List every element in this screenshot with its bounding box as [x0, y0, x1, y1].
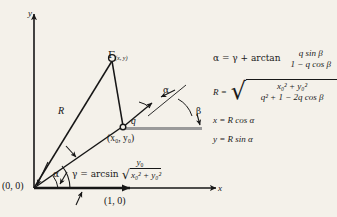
gamma-radicand: x₀² + y₀² [130, 168, 161, 182]
equation-R-radical: √ x₀² + y₀² q² + 1 − 2q cos β [231, 79, 337, 104]
angle-arc-alpha-origin [62, 166, 70, 188]
equation-R-denominator: q² + 1 − 2q cos β [257, 91, 328, 102]
apex-subscript: (x, y) [115, 54, 128, 61]
equation-R-numerator: x₀² + y₀² [273, 81, 311, 92]
equation-R: R = √ x₀² + y₀² q² + 1 − 2q cos β [213, 79, 337, 104]
x-axis-label: x [218, 184, 222, 193]
radical-sign: √ [122, 168, 130, 182]
angle-arc-beta [178, 99, 192, 116]
y-axis-label: y [28, 9, 32, 18]
equation-R-radicand: x₀² + y₀² q² + 1 − 2q cos β [246, 79, 337, 104]
gamma-numerator: y0 [131, 157, 150, 167]
inner-point-marker [120, 124, 126, 130]
equation-y: y = R sin α [213, 134, 337, 144]
apex-symbol: Γ [108, 49, 115, 60]
angle-beta-label: β [196, 107, 201, 116]
equation-R-fraction: x₀² + y₀² q² + 1 − 2q cos β [247, 81, 337, 101]
figure-canvas: y x (0, 0) (1, 0) Γ(x, y) (x₀, y₀) R q α… [0, 0, 337, 217]
radical-sign: √ [231, 79, 246, 104]
segment-apex-to-point [112, 61, 123, 126]
inner-point-label: (x₀, y₀) [107, 134, 134, 144]
unit-point-label: (1, 0) [104, 196, 126, 206]
equation-alpha-lhs: α = γ + arctan [213, 53, 280, 63]
equation-block: α = γ + arctan q sin β 1 − q cos β R = √… [213, 48, 337, 144]
gamma-definition: γ = arcsin y0 √ x₀² + y₀² [72, 157, 161, 192]
equation-alpha-denominator: 1 − q cos β [286, 58, 335, 69]
equation-alpha: α = γ + arctan q sin β 1 − q cos β [213, 48, 337, 68]
origin-label: (0, 0) [2, 181, 24, 191]
equation-alpha-fraction: q sin β 1 − q cos β [284, 48, 337, 68]
apex-point-label: Γ(x, y) [108, 50, 128, 61]
gamma-definition-lhs: γ = arcsin [72, 169, 119, 179]
angle-arc-alpha [139, 102, 150, 108]
leader-unit-point [76, 192, 82, 205]
angle-alpha-origin-label: α [53, 170, 59, 179]
ray-label: q [131, 117, 136, 127]
radius-label: R [58, 106, 64, 116]
gamma-fraction: y0 √ x₀² + y₀² [122, 157, 162, 192]
equation-alpha-numerator: q sin β [295, 48, 327, 59]
angle-alpha-label: α [163, 86, 169, 95]
leader-gamma [66, 146, 76, 157]
equation-R-lhs: R = [213, 87, 227, 97]
segment-q [123, 103, 152, 127]
gamma-radical: √ x₀² + y₀² [122, 168, 162, 182]
equation-x: x = R cos α [213, 115, 337, 125]
leader-origin-b [60, 172, 67, 184]
